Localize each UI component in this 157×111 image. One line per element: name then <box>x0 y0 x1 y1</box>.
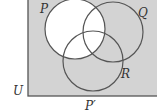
set-r-label: R <box>120 67 130 81</box>
set-q-label: Q <box>138 6 148 20</box>
universe-label: U <box>13 84 24 98</box>
set-p-label: P <box>39 2 49 16</box>
caption-label: P′ <box>84 99 96 111</box>
venn-diagram: P Q R U P′ <box>0 0 157 111</box>
